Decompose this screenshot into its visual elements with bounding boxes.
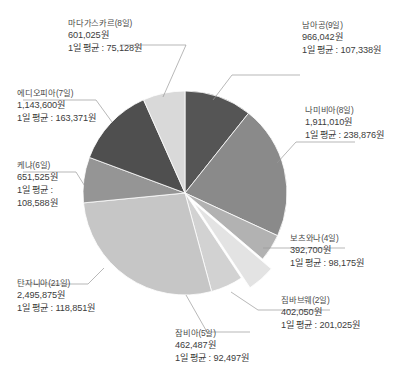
callout-total-케냐: 651,525원 [17, 171, 57, 184]
callout-category-마다가스카르: 마다가스카르(8일) [68, 18, 142, 29]
callout-daily-남아공: 1일 평균 : 107,338원 [302, 44, 381, 57]
leader-line-잠비아 [186, 295, 250, 332]
callout-category-케냐: 케냐(6일) [17, 160, 57, 171]
callout-category-잠비아: 잠비아(5일) [175, 328, 249, 339]
callout-daily-보츠와나: 1일 평균 : 98,175원 [290, 257, 364, 270]
callout-daily-label-케냐: 1일 평균 : [17, 184, 57, 197]
callout-잠비아: 잠비아(5일) 462,487원 1일 평균 : 92,497원 [175, 328, 249, 365]
callout-daily-짐바브웨: 1일 평균 : 201,025원 [281, 319, 360, 332]
callout-total-마다가스카르: 601,025원 [68, 29, 142, 42]
callout-daily-나미비아: 1일 평균 : 238,876원 [305, 129, 384, 142]
callout-daily-탄자니아: 1일 평균 : 118,851원 [17, 302, 95, 315]
pie-chart: 남아공(9일) 966,042원 1일 평균 : 107,338원 나미비아(8… [0, 0, 398, 392]
callout-에디오피아: 에디오피아(7일) 1,143,600원 1일 평균 : 163,371원 [17, 88, 96, 125]
callout-보츠와나: 보츠와나(4일) 392,700원 1일 평균 : 98,175원 [290, 233, 364, 270]
callout-total-짐바브웨: 402,050원 [281, 306, 360, 319]
callout-category-에디오피아: 에디오피아(7일) [17, 88, 96, 99]
callout-daily-마다가스카르: 1일 평균 : 75,128원 [68, 42, 142, 55]
callout-짐바브웨: 짐바브웨(2일) 402,050원 1일 평균 : 201,025원 [281, 295, 360, 332]
callout-category-짐바브웨: 짐바브웨(2일) [281, 295, 360, 306]
callout-total-보츠와나: 392,700원 [290, 244, 364, 257]
callout-total-남아공: 966,042원 [302, 31, 381, 44]
callout-마다가스카르: 마다가스카르(8일) 601,025원 1일 평균 : 75,128원 [68, 18, 142, 55]
callout-total-탄자니아: 2,495,875원 [17, 289, 95, 302]
callout-category-나미비아: 나미비아(8일) [305, 105, 384, 116]
callout-category-보츠와나: 보츠와나(4일) [290, 233, 364, 244]
callout-남아공: 남아공(9일) 966,042원 1일 평균 : 107,338원 [302, 20, 381, 57]
callout-케냐: 케냐(6일) 651,525원 1일 평균 : 108,588원 [17, 160, 57, 210]
callout-total-나미비아: 1,911,010원 [305, 116, 384, 129]
leader-line-나미비아 [277, 142, 355, 163]
callout-나미비아: 나미비아(8일) 1,911,010원 1일 평균 : 238,876원 [305, 105, 384, 142]
callout-category-남아공: 남아공(9일) [302, 20, 381, 31]
pie-slices [83, 91, 287, 295]
callout-daily-에디오피아: 1일 평균 : 163,371원 [17, 112, 96, 125]
callout-탄자니아: 탄자니아(21일) 2,495,875원 1일 평균 : 118,851원 [17, 278, 95, 315]
callout-total-에디오피아: 1,143,600원 [17, 99, 96, 112]
callout-category-탄자니아: 탄자니아(21일) [17, 278, 95, 289]
callout-total-잠비아: 462,487원 [175, 339, 249, 352]
callout-daily-value-케냐: 108,588원 [17, 197, 57, 210]
callout-daily-잠비아: 1일 평균 : 92,497원 [175, 352, 249, 365]
leader-line-남아공 [213, 75, 300, 100]
